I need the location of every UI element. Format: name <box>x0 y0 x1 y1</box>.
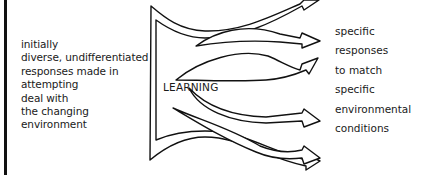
right-label-line: conditions <box>335 119 411 138</box>
right-label-line: environmental <box>335 100 411 119</box>
right-label-line: responses <box>335 41 411 60</box>
right-label-line: specific <box>335 22 411 41</box>
learning-label: LEARNING <box>163 81 219 93</box>
arrow-icon <box>176 53 318 80</box>
output-description: specific responses to match specific env… <box>335 22 411 138</box>
right-label-line: specific <box>335 80 411 99</box>
right-label-line: to match <box>335 61 411 80</box>
arrow-icon <box>189 88 320 127</box>
